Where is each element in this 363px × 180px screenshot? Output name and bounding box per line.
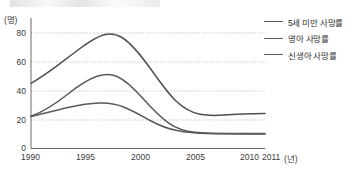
legend-line-swatch-infant <box>264 38 283 39</box>
legend-line-swatch-under5 <box>264 21 283 22</box>
x-tick-2000: 2000 <box>131 152 150 162</box>
series-line-infant <box>31 75 265 134</box>
gridlines <box>31 33 265 120</box>
x-tick-1995: 1995 <box>76 152 95 162</box>
legend-line-swatch-neonatal <box>264 54 283 55</box>
series-line-neonatal <box>31 103 265 134</box>
chart-container: (명) 80 60 40 20 0 1990 1995 2000 2005 20… <box>0 0 363 180</box>
x-tick-2010: 2010 <box>240 152 259 162</box>
x-tick-1990: 1990 <box>21 152 40 162</box>
legend-item-infant[interactable]: 영아 사망률 <box>264 33 343 44</box>
x-axis-unit-label: (년) <box>284 152 298 164</box>
legend-label-under5: 5세 미만 사망률 <box>288 16 343 28</box>
legend-label-infant: 영아 사망률 <box>288 32 329 44</box>
legend-item-under5[interactable]: 5세 미만 사망률 <box>264 16 343 27</box>
legend-label-neonatal: 신생아 사망률 <box>288 49 337 61</box>
chart-legend: 5세 미만 사망률 영아 사망률 신생아 사망률 <box>264 16 343 60</box>
x-tick-2011: 2011 <box>262 152 280 162</box>
x-tick-2005: 2005 <box>186 152 205 162</box>
legend-item-neonatal[interactable]: 신생아 사망률 <box>264 49 343 60</box>
